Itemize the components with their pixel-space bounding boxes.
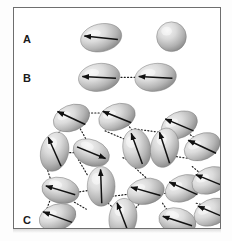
dipole-bond [112,194,128,196]
frame-drop-shadow [13,229,221,233]
ellipsoid-with-dipole [36,199,80,228]
ellipsoid-with-dipole [120,127,154,171]
panel-label-c: C [23,215,31,226]
figure-frame: A B C [13,7,221,229]
ellipsoid-with-dipole [36,129,72,174]
sphere-body [157,22,187,52]
particle-scene [14,8,220,228]
ellipsoid-with-dipole [78,20,124,56]
panel-label-a: A [23,34,31,45]
dipole-bond [74,202,86,209]
ellipsoid-with-dipole [49,99,94,137]
dipole-bond [80,129,86,140]
ellipsoid-with-dipole [156,204,199,228]
plain-sphere [157,22,187,52]
dipole-bond [135,168,146,178]
figure-container: A B C [0,0,232,241]
ellipsoid-with-dipole [87,167,115,207]
dipole-bond [105,131,126,140]
panel-label-b: B [23,73,31,84]
ellipsoid-with-dipole [77,61,122,94]
ellipsoid-with-dipole [133,61,178,94]
specular-highlight [161,27,172,36]
dipole-bond [192,167,198,172]
ellipsoid-with-dipole [69,134,114,172]
ellipsoid-with-dipole [39,174,81,207]
ellipsoid-body [36,199,80,228]
